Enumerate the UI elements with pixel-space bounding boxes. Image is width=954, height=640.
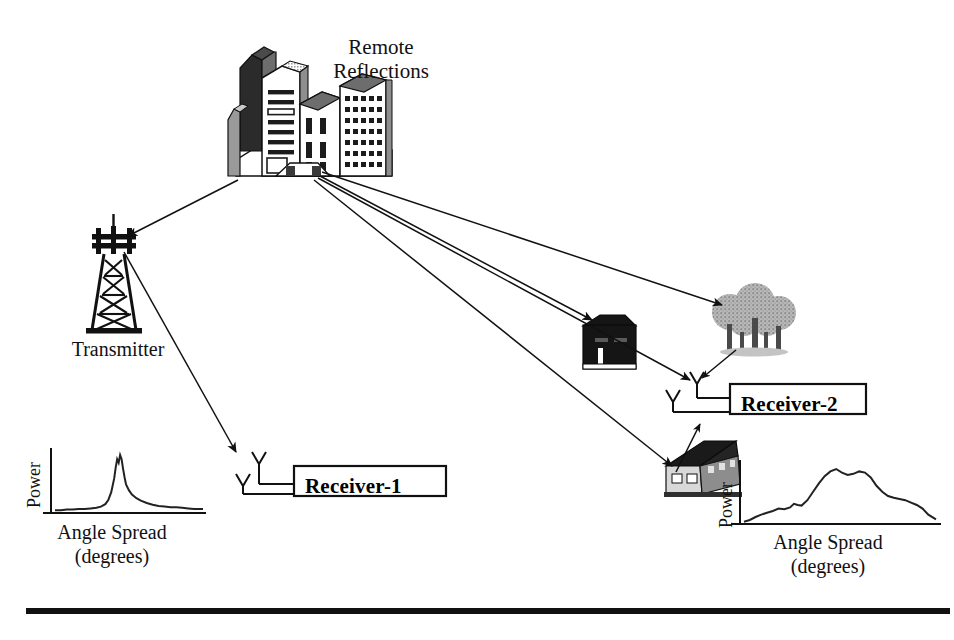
antenna-icon [236,452,294,494]
antenna-icon [666,372,730,412]
chart-angle-spread-receiver-2 [731,460,941,524]
ray-trees-to-receiver-2 [702,350,736,378]
left-chart-ylabel: Power [24,462,45,508]
diagram-canvas: Remote Reflections Transmitter Receiver-… [0,0,954,640]
transmitter-label: Transmitter [33,338,203,360]
angle-spread-curve [55,455,203,510]
left-chart-xlabel: Angle Spread (degrees) [14,521,210,568]
receiver-1-label: Receiver-1 [305,474,402,499]
footer-rule [26,608,950,614]
receiver-2-label: Receiver-2 [741,392,838,417]
remote-reflections-label: Remote Reflections [296,36,466,83]
chart-angle-spread-receiver-1 [43,448,206,513]
transmitter-tower-icon [86,214,142,334]
tree-cluster-icon [712,283,796,357]
ray-city-to-trees [322,172,722,305]
right-chart-ylabel: Power [716,482,737,528]
angle-spread-curve [744,469,936,522]
dark-house-icon [583,315,636,369]
ray-city-to-receiver-2 [318,178,690,380]
right-chart-xlabel: Angle Spread (degrees) [712,531,944,578]
ray-transmitter-to-city [128,180,238,236]
